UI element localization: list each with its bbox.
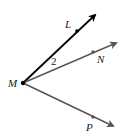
point-L-label: L: [64, 18, 71, 30]
point-P-label: P: [85, 121, 93, 133]
point-L-dot: [75, 29, 79, 33]
angle-2-label: 2: [51, 55, 57, 67]
point-P-dot: [91, 115, 94, 118]
point-N-label: N: [96, 53, 105, 65]
vertex-M-label: M: [7, 77, 18, 89]
point-N-dot: [91, 50, 94, 53]
angle-diagram: L N P M 2: [0, 0, 121, 138]
ray-ML: [23, 15, 95, 83]
ray-MP: [23, 83, 113, 126]
vertex-M-dot: [21, 81, 25, 85]
